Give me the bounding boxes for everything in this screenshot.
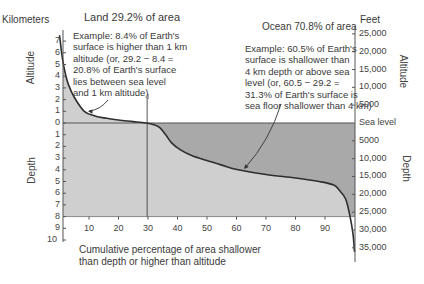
right-altitude-label: Altitude — [398, 55, 409, 88]
x-tick-label: 40 — [173, 223, 183, 233]
right-tick-label-altitude: 10,000 — [359, 81, 387, 91]
land-title: Land 29.2% of area — [84, 12, 180, 23]
x-tick-label: 20 — [114, 223, 124, 233]
right-tick-label-depth: 20,000 — [359, 188, 387, 198]
left-axis-unit: Kilometers — [2, 14, 49, 25]
ocean-title: Ocean 70.8% of area — [262, 21, 357, 32]
ocean-example-annotation: Example: 60.5% of Earth'ssurface is shal… — [245, 43, 372, 111]
annotation-line: 31.3% of Earth's surface is — [245, 89, 372, 100]
left-tick-label-altitude: 4 — [48, 70, 60, 80]
right-tick-label-depth: 5000 — [359, 135, 379, 145]
right-tick-label-depth: 10,000 — [359, 153, 387, 163]
left-tick-label-depth: 7 — [48, 199, 60, 209]
left-tick-label-altitude: 7 — [48, 35, 60, 45]
x-tick-label: 80 — [291, 223, 301, 233]
annotation-line: 4 km depth or above sea — [245, 66, 372, 77]
right-axis-unit: Feet — [360, 14, 380, 25]
right-tick-label-altitude: 25,000 — [359, 28, 387, 38]
left-tick-label-depth: 10 — [45, 234, 57, 244]
left-depth-label: Depth — [26, 157, 37, 184]
right-tick-label-altitude: 15,000 — [359, 64, 387, 74]
right-tick-label-depth: 35,000 — [359, 242, 387, 252]
annotation-line: surface is higher than 1 km — [73, 41, 187, 52]
land-example-annotation: Example: 8.4% of Earth'ssurface is highe… — [73, 30, 187, 98]
right-tick-label-altitude: 20,000 — [359, 46, 387, 56]
left-tick-label-altitude: 0 — [48, 117, 60, 127]
annotation-line: Example: 8.4% of Earth's — [73, 30, 187, 41]
right-depth-label: Depth — [401, 155, 412, 182]
x-tick-label: 90 — [320, 223, 330, 233]
annotation-line: Cumulative percentage of area shallower — [79, 244, 261, 256]
left-tick-label-altitude: 6 — [48, 47, 60, 57]
land-arrow — [89, 100, 108, 111]
left-tick-label-depth: 2 — [48, 140, 60, 150]
left-tick-label-depth: 6 — [48, 187, 60, 197]
annotation-line: and 1 km altitude) — [73, 87, 187, 98]
x-tick-label: 70 — [261, 223, 271, 233]
annotation-line: than depth or higher than altitude — [79, 256, 261, 268]
right-tick-label-depth: 15,000 — [359, 170, 387, 180]
right-tick-label-depth: 30,000 — [359, 224, 387, 234]
sea-level-label: Sea level — [359, 117, 396, 127]
annotation-line: Example: 60.5% of Earth's — [245, 43, 372, 54]
x-tick-label: 10 — [84, 223, 94, 233]
left-tick-label-altitude: 1 — [48, 105, 60, 115]
right-tick-label-depth: 25,000 — [359, 206, 387, 216]
annotation-line: surface is shallower than — [245, 54, 372, 65]
x-tick-label: 60 — [232, 223, 242, 233]
left-tick-label-depth: 4 — [48, 164, 60, 174]
left-tick-label-depth: 9 — [48, 222, 60, 232]
x-axis-label: Cumulative percentage of area shallowert… — [79, 244, 261, 268]
left-tick-label-depth: 1 — [48, 129, 60, 139]
left-tick-label-depth: 5 — [48, 176, 60, 186]
x-tick-label: 50 — [202, 223, 212, 233]
left-tick-label-altitude: 5 — [48, 59, 60, 69]
left-tick-label-altitude: 3 — [48, 82, 60, 92]
annotation-line: 20.8% of Earth's surface — [73, 64, 187, 75]
annotation-line: lies between sea level — [73, 76, 187, 87]
left-tick-label-depth: 8 — [48, 211, 60, 221]
annotation-line: sea floor shallower than 4 km) — [245, 100, 372, 111]
annotation-line: level (or, 60.5 − 29.2 = — [245, 77, 372, 88]
annotation-line: altitude (or, 29.2 − 8.4 = — [73, 53, 187, 64]
right-tick-label-altitude: 5000 — [359, 99, 379, 109]
left-altitude-label: Altitude — [25, 51, 36, 84]
x-tick-label: 30 — [143, 223, 153, 233]
left-tick-label-altitude: 2 — [48, 94, 60, 104]
left-tick-label-depth: 3 — [48, 152, 60, 162]
